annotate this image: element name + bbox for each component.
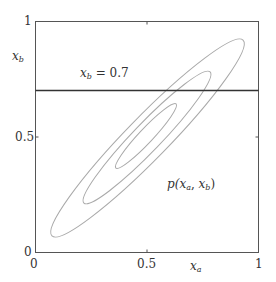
plot-canvas <box>0 0 276 282</box>
conditioning-label-value: = 0.7 <box>92 66 129 80</box>
conditioning-label-main: x <box>80 66 87 80</box>
y-axis-label-main: x <box>12 49 19 63</box>
y-axis-label-sub: b <box>19 55 24 64</box>
x-axis-label-sub: a <box>197 265 202 274</box>
y-tick-label-1: 1 <box>24 15 32 27</box>
contour-outer <box>37 25 258 250</box>
density-label-close: ) <box>210 177 215 191</box>
gaussian-contour-figure: 1 0.5 0 0 0.5 1 xb xa xb = 0.7 p(xa, xb) <box>0 0 276 282</box>
y-tick-label-0.5: 0.5 <box>15 131 34 143</box>
density-label-p: p( <box>167 177 179 191</box>
conditioning-line-label: xb = 0.7 <box>80 67 129 81</box>
plot-frame <box>36 22 259 253</box>
y-axis-label: xb <box>12 50 24 64</box>
x-axis-label: xa <box>190 260 202 274</box>
x-tick-label-1: 1 <box>255 258 263 270</box>
x-axis-label-main: x <box>190 259 197 273</box>
density-contours <box>37 25 258 250</box>
x-tick-label-0.5: 0.5 <box>137 258 156 270</box>
x-tick-label-0: 0 <box>30 258 38 270</box>
density-label: p(xa, xb) <box>167 178 215 192</box>
density-label-comma: , <box>191 177 199 191</box>
